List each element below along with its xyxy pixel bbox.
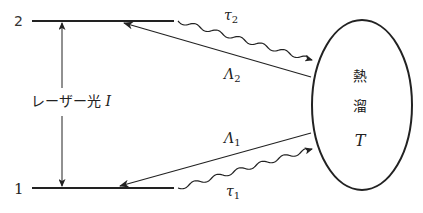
laser-label-text: レーザー光 [31, 93, 105, 109]
lambda1-subscript: 1 [234, 137, 240, 148]
two-level-system-diagram: 2 1 レーザー光 I 熱 溜 T τ2 Λ2 Λ1 τ1 [0, 0, 423, 213]
laser-intensity-symbol: I [104, 93, 111, 109]
lambda1-transition-arrow [120, 133, 311, 186]
lambda2-subscript: 2 [234, 73, 240, 84]
tau2-subscript: 2 [232, 14, 238, 25]
tau2-label: τ2 [224, 7, 238, 25]
tau1-relaxation-wave [178, 149, 312, 189]
laser-label: レーザー光 I [31, 93, 111, 109]
lambda1-label: Λ1 [222, 130, 241, 148]
level-1-label: 1 [14, 180, 24, 198]
tau2-relaxation-wave [178, 21, 312, 60]
reservoir-label-line1: 熱 [353, 68, 367, 84]
lambda2-symbol: Λ [222, 66, 234, 82]
reservoir-temperature-symbol: T [355, 131, 367, 150]
level-2-label: 2 [14, 13, 23, 29]
lambda2-label: Λ2 [222, 66, 241, 84]
tau1-label: τ1 [226, 183, 240, 201]
reservoir-label-line2: 溜 [353, 98, 367, 114]
tau1-subscript: 1 [234, 190, 240, 201]
lambda1-symbol: Λ [222, 130, 234, 146]
